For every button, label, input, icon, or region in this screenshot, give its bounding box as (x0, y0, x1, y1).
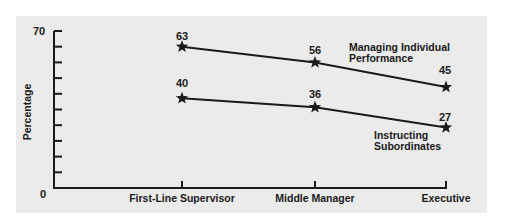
value-label: 40 (176, 77, 188, 89)
star-marker-icon (309, 56, 321, 68)
series-label-managing: Performance (349, 52, 413, 64)
star-marker-icon (440, 81, 452, 93)
x-category-label: Executive (421, 192, 470, 204)
series-label-instructing: Subordinates (374, 140, 441, 152)
series-line (182, 98, 446, 127)
x-category-label: First-Line Supervisor (129, 192, 235, 204)
value-label: 56 (309, 44, 321, 56)
y-min-label: 0 (40, 188, 46, 200)
star-marker-icon (176, 92, 188, 104)
line-chart: 70 0 Percentage 63 56 45 40 36 27 Managi… (0, 0, 506, 220)
value-label: 36 (309, 88, 321, 100)
y-axis-title: Percentage (21, 84, 33, 141)
x-axis (53, 181, 447, 188)
star-marker-icon (309, 101, 321, 113)
y-max-label: 70 (33, 25, 45, 37)
y-axis (54, 31, 62, 189)
x-category-label: Middle Manager (275, 192, 354, 204)
value-label: 27 (439, 111, 451, 123)
value-label: 63 (176, 30, 188, 42)
value-label: 45 (439, 64, 451, 76)
